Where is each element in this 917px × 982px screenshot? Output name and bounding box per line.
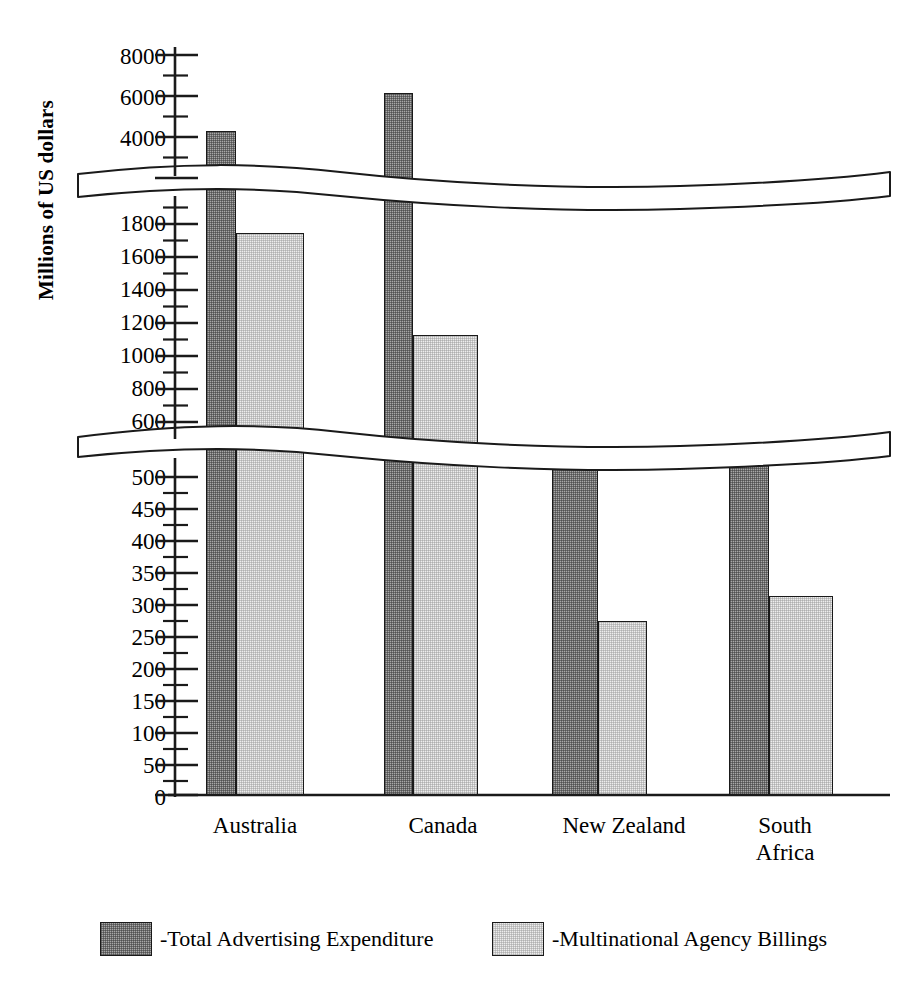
bar-new-zealand-multinational-agency-billings [598, 621, 647, 796]
y-tick-label: 450 [132, 498, 167, 521]
y-tick-label: 350 [132, 562, 167, 585]
bar-australia-total-advertising-expenditure [206, 131, 236, 796]
y-tick-label: 400 [132, 530, 167, 553]
y-tick-label: 50 [143, 754, 166, 777]
y-tick-label: 250 [132, 626, 167, 649]
y-tick-label: 1800 [120, 212, 166, 235]
y-tick-label: 1200 [120, 311, 166, 334]
bar-australia-multinational-agency-billings [236, 233, 304, 796]
y-tick-label: 4000 [120, 127, 166, 150]
x-axis-category-label-new-zealand: New Zealand [524, 812, 724, 839]
y-tick-label: 1400 [120, 278, 166, 301]
y-tick-label: 200 [132, 658, 167, 681]
bar-new-zealand-total-advertising-expenditure [552, 469, 598, 796]
y-axis-label: Millions of US dollars [34, 0, 59, 300]
bar-south-africa-multinational-agency-billings [769, 596, 833, 796]
bar-south-africa-total-advertising-expenditure [729, 452, 769, 796]
x-axis-category-label-australia: Australia [175, 812, 335, 839]
legend-swatch-dark-icon [100, 922, 152, 956]
y-tick-label: 150 [132, 690, 167, 713]
y-tick-label: 300 [132, 594, 167, 617]
y-tick-label: 1600 [120, 245, 166, 268]
y-tick-label: 100 [132, 722, 167, 745]
legend-item-multinational-agency-billings: -Multinational Agency Billings [492, 922, 827, 956]
y-tick-label: 600 [132, 410, 167, 433]
y-tick-label: 500 [132, 466, 167, 489]
x-axis-category-label-south-africa: South Africa [710, 812, 860, 866]
y-tick-label: 1000 [120, 344, 166, 367]
bar-canada-multinational-agency-billings [413, 335, 478, 796]
y-tick-label: 8000 [120, 45, 166, 68]
legend-label: -Multinational Agency Billings [552, 926, 827, 952]
bar-canada-total-advertising-expenditure [384, 93, 413, 796]
x-axis-category-label-canada: Canada [368, 812, 518, 839]
y-tick-label: 2000 [120, 168, 166, 191]
y-tick-label: 6000 [120, 86, 166, 109]
legend-swatch-light-icon [492, 922, 544, 956]
y-tick-label: 800 [132, 377, 167, 400]
legend-label: -Total Advertising Expenditure [160, 926, 433, 952]
y-tick-label: 0 [155, 786, 167, 809]
legend-item-total-advertising-expenditure: -Total Advertising Expenditure [100, 922, 433, 956]
chart-container: Millions of US dollars 8000 6000 4000 20… [0, 0, 917, 982]
chart-legend: -Total Advertising Expenditure -Multinat… [0, 912, 917, 972]
